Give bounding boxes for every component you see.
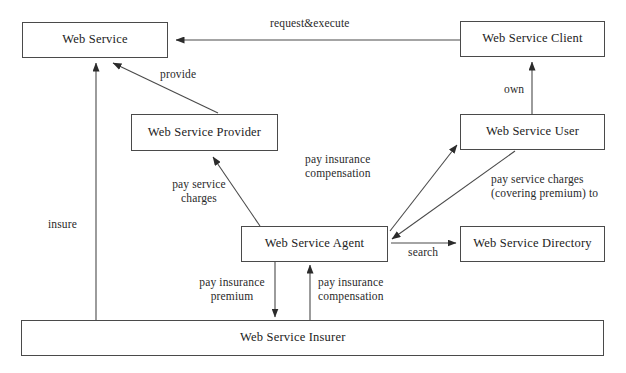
edge-label-pay-charges-covering-premium: pay service charges (covering premium) t… [491, 173, 598, 200]
edge-label-pay-service-charges-line1: pay service [166, 178, 232, 192]
edge-label-provide-line1: provide [160, 68, 196, 82]
edge-label-pay-service-charges: pay service charges [166, 178, 232, 205]
edge-label-request-execute-line1: request&execute [270, 17, 350, 31]
edge-label-pay-service-charges-line2: charges [166, 192, 232, 206]
edge-label-insure-line1: insure [48, 218, 77, 232]
edge-label-own-line1: own [504, 83, 524, 97]
node-web-service-insurer[interactable]: Web Service Insurer [21, 320, 604, 356]
node-web-service-client[interactable]: Web Service Client [460, 21, 605, 57]
edge-label-pay-insurance-compensation-agent-line2: compensation [318, 290, 384, 304]
node-web-service-label: Web Service [62, 33, 127, 47]
edge-label-pay-insurance-compensation-user-line1: pay insurance [305, 153, 371, 167]
edge-label-pay-insurance-compensation-user-line2: compensation [305, 167, 371, 181]
edge-label-pay-insurance-compensation-agent: pay insurance compensation [318, 276, 384, 303]
edge-label-pay-charges-covering-premium-line2: (covering premium) to [491, 187, 598, 201]
node-web-service-directory[interactable]: Web Service Directory [460, 226, 605, 262]
edge-label-pay-insurance-premium-line1: pay insurance [195, 276, 269, 290]
node-web-service[interactable]: Web Service [22, 22, 168, 58]
node-web-service-directory-label: Web Service Directory [473, 237, 591, 251]
node-web-service-insurer-label: Web Service Insurer [240, 331, 346, 345]
node-web-service-agent[interactable]: Web Service Agent [241, 226, 388, 262]
edge-label-pay-insurance-premium: pay insurance premium [195, 276, 269, 303]
edge-label-search: search [408, 246, 438, 260]
edge-pay-insurance-compensation-user [390, 145, 457, 231]
edge-label-pay-insurance-premium-line2: premium [195, 290, 269, 304]
edge-label-pay-insurance-compensation-agent-line1: pay insurance [318, 276, 384, 290]
edge-label-insure: insure [48, 218, 77, 232]
node-web-service-agent-label: Web Service Agent [265, 237, 365, 251]
node-web-service-user-label: Web Service User [486, 125, 579, 139]
diagram-canvas: Web Service Web Service Client Web Servi… [0, 0, 626, 373]
edge-label-search-line1: search [408, 246, 438, 260]
edge-label-pay-insurance-compensation-user: pay insurance compensation [305, 153, 371, 180]
edge-label-request-execute: request&execute [270, 17, 350, 31]
edge-label-provide: provide [160, 68, 196, 82]
edge-label-pay-charges-covering-premium-line1: pay service charges [491, 173, 598, 187]
edge-label-own: own [504, 83, 524, 97]
node-web-service-provider[interactable]: Web Service Provider [131, 114, 278, 151]
node-web-service-provider-label: Web Service Provider [148, 126, 261, 140]
node-web-service-user[interactable]: Web Service User [460, 114, 605, 150]
node-web-service-client-label: Web Service Client [482, 32, 582, 46]
